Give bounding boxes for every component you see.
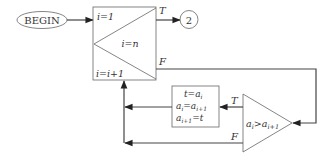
swap-line-3: ai+1=t [176, 113, 204, 124]
compare-false-label: F [230, 131, 239, 142]
compare-text: ai>ai+1 [246, 118, 279, 131]
connector-2: 2 [180, 11, 198, 29]
loop-true-label: T [159, 5, 167, 16]
swap-line-2: ai=ai+1 [176, 101, 207, 112]
loop-init: i=1 [97, 11, 114, 22]
connector-label: 2 [186, 15, 192, 26]
swap-line-1: t=ai [184, 89, 203, 100]
loop-block: i=1 i=n i=i+1 [93, 7, 156, 80]
swap-block: t=ai ai=ai+1 ai+1=t [172, 86, 219, 127]
flowchart: BEGIN i=1 i=n i=i+1 T 2 F ai>ai+1 T t=ai… [0, 0, 336, 166]
begin-label: BEGIN [24, 15, 60, 26]
compare-true-label: T [231, 95, 239, 106]
begin-terminal: BEGIN [17, 12, 67, 29]
loop-condition: i=n [121, 38, 138, 49]
loop-false-label: F [158, 56, 167, 67]
loop-increment: i=i+1 [96, 68, 124, 79]
compare-block: ai>ai+1 [243, 94, 292, 152]
